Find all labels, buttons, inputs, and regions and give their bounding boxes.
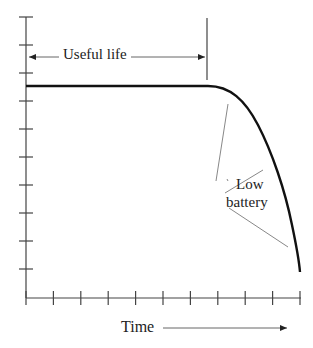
low-battery-label-line1: Low <box>236 177 264 193</box>
useful-life-label: Useful life <box>59 47 131 63</box>
x-axis-label: Time <box>121 319 154 336</box>
battery-discharge-chart <box>0 0 313 348</box>
y-axis <box>19 17 33 298</box>
x-axis <box>26 291 301 305</box>
low-battery-label-line2: battery <box>226 195 268 211</box>
